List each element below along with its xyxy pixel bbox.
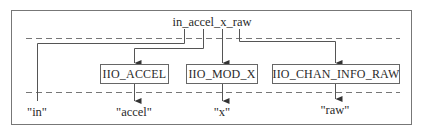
output-raw: "raw" [321, 103, 350, 117]
box-iio-accel: IIO_ACCEL [101, 65, 169, 84]
title-label: in_accel_x_raw [172, 15, 251, 29]
box-label: IIO_CHAN_INFO_RAW [272, 67, 400, 81]
output-in: "in" [27, 105, 47, 119]
connector-accel [135, 29, 204, 63]
output-accel: "accel" [116, 105, 152, 119]
output-x: "x" [214, 105, 230, 119]
box-label: IIO_ACCEL [103, 67, 167, 81]
box-iio-mod-x: IIO_MOD_X [187, 65, 258, 84]
diagram-canvas: in_accel_x_raw IIO_ACCEL IIO_MOD_X IIO_C… [0, 0, 424, 137]
connector-raw [240, 29, 336, 63]
box-label: IIO_MOD_X [188, 67, 255, 81]
box-iio-chan-info-raw: IIO_CHAN_INFO_RAW [272, 65, 400, 84]
